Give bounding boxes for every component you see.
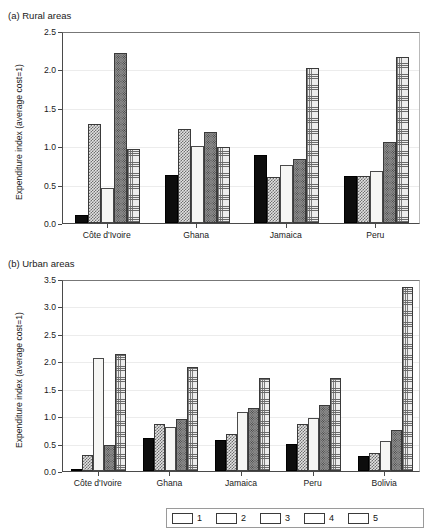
x-tick-mark bbox=[98, 472, 99, 476]
bar bbox=[176, 419, 187, 471]
legend-item: 1 bbox=[172, 513, 202, 524]
solid-black-swatch bbox=[172, 513, 193, 524]
legend-item: 4 bbox=[304, 513, 334, 524]
x-tick-label: Peru bbox=[304, 478, 322, 488]
y-tick-label: 3.5 bbox=[44, 275, 56, 285]
bar bbox=[369, 453, 380, 471]
bar bbox=[165, 175, 178, 223]
bar bbox=[114, 53, 127, 223]
y-tick-label: 1.5 bbox=[44, 104, 56, 114]
legend-item: 5 bbox=[348, 513, 378, 524]
y-tick-label: 2.5 bbox=[44, 27, 56, 37]
legend-item-label: 1 bbox=[197, 513, 202, 523]
legend-item-label: 3 bbox=[285, 513, 290, 523]
y-tick-label: 1.5 bbox=[44, 385, 56, 395]
x-tick-mark bbox=[169, 472, 170, 476]
bar bbox=[75, 215, 88, 223]
bar bbox=[217, 147, 230, 223]
bar bbox=[357, 176, 370, 223]
y-tick-label: 1.0 bbox=[44, 142, 56, 152]
bar bbox=[358, 456, 369, 471]
bar bbox=[308, 418, 319, 471]
figure-page: ·························· (a) Rural are… bbox=[0, 0, 432, 530]
x-tick-mark bbox=[241, 472, 242, 476]
urban-chart: Expenditure index (average cost=1) 0.00.… bbox=[0, 248, 432, 498]
bar bbox=[286, 444, 297, 471]
white-empty-swatch bbox=[260, 513, 281, 524]
x-tick-mark bbox=[107, 224, 108, 228]
urban-plot-area bbox=[62, 280, 420, 472]
y-tick-label: 2.0 bbox=[44, 65, 56, 75]
y-tick-label: 0.0 bbox=[44, 467, 56, 477]
bar bbox=[82, 455, 93, 471]
bar bbox=[259, 378, 270, 471]
legend-item: 3 bbox=[260, 513, 290, 524]
bar bbox=[187, 367, 198, 471]
bar bbox=[370, 171, 383, 223]
bar bbox=[93, 358, 104, 471]
urban-bars bbox=[63, 281, 419, 471]
bar bbox=[330, 378, 341, 471]
x-tick-mark bbox=[384, 472, 385, 476]
x-tick-label: Ghana bbox=[183, 230, 209, 240]
bar bbox=[280, 165, 293, 223]
bar bbox=[293, 159, 306, 223]
y-tick-mark bbox=[58, 472, 62, 473]
x-tick-label: Jamaica bbox=[225, 478, 257, 488]
y-tick-label: 0.5 bbox=[44, 181, 56, 191]
x-tick-label: Bolivia bbox=[372, 478, 397, 488]
x-tick-label: Côte d'Ivoire bbox=[83, 230, 131, 240]
y-tick-label: 1.0 bbox=[44, 412, 56, 422]
bar bbox=[165, 427, 176, 471]
bar bbox=[254, 155, 267, 223]
bar bbox=[344, 176, 357, 223]
x-tick-label: Ghana bbox=[156, 478, 182, 488]
legend-item-label: 4 bbox=[329, 513, 334, 523]
bar bbox=[178, 129, 191, 223]
x-tick-mark bbox=[375, 224, 376, 228]
checker-gray-swatch bbox=[216, 513, 237, 524]
y-tick-label: 2.5 bbox=[44, 330, 56, 340]
rural-y-axis: 0.00.51.01.52.02.5 bbox=[0, 32, 62, 224]
bar bbox=[101, 188, 114, 223]
bar bbox=[297, 424, 308, 471]
bar bbox=[71, 469, 82, 471]
bar bbox=[104, 445, 115, 471]
rural-bars bbox=[63, 33, 419, 223]
bar bbox=[204, 132, 217, 223]
rural-plot-area bbox=[62, 32, 420, 224]
bar bbox=[88, 124, 101, 223]
x-tick-label: Jamaica bbox=[270, 230, 302, 240]
x-tick-mark bbox=[286, 224, 287, 228]
legend-item: 2 bbox=[216, 513, 246, 524]
chart-legend: 12345 bbox=[166, 508, 424, 528]
dotted-darkgray-swatch bbox=[304, 513, 325, 524]
y-tick-label: 0.5 bbox=[44, 440, 56, 450]
bar bbox=[127, 149, 140, 223]
bar bbox=[267, 177, 280, 223]
bar bbox=[215, 440, 226, 471]
bar bbox=[154, 424, 165, 471]
legend-item-label: 2 bbox=[241, 513, 246, 523]
bar bbox=[143, 438, 154, 471]
bar bbox=[380, 441, 391, 471]
bar bbox=[115, 354, 126, 471]
x-tick-label: Côte d'Ivoire bbox=[74, 478, 122, 488]
y-tick-label: 3.0 bbox=[44, 302, 56, 312]
bar bbox=[237, 412, 248, 471]
bar bbox=[402, 287, 413, 471]
fine-grid-swatch bbox=[348, 513, 369, 524]
urban-y-axis: 0.00.51.01.52.02.53.03.5 bbox=[0, 280, 62, 472]
bar bbox=[396, 57, 409, 223]
x-tick-mark bbox=[196, 224, 197, 228]
bar bbox=[391, 430, 402, 471]
y-tick-mark bbox=[58, 224, 62, 225]
bar bbox=[191, 146, 204, 223]
bar bbox=[226, 434, 237, 471]
bar bbox=[248, 408, 259, 471]
bar bbox=[306, 68, 319, 223]
x-tick-label: Peru bbox=[366, 230, 384, 240]
rural-chart: Expenditure index (average cost=1) 0.00.… bbox=[0, 0, 432, 250]
bar bbox=[319, 405, 330, 471]
y-tick-label: 2.0 bbox=[44, 357, 56, 367]
